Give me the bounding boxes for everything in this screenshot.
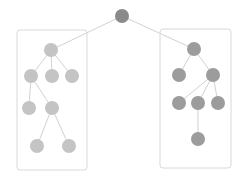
tree-node-L6 (45, 101, 59, 115)
tree-node-L5 (22, 101, 36, 115)
tree-node-L2 (24, 69, 38, 83)
tree-diagram (0, 0, 245, 181)
tree-node-L8 (62, 139, 76, 153)
tree-node-L3 (45, 69, 59, 83)
tree-node-L7 (30, 139, 44, 153)
tree-node-L4 (65, 69, 79, 83)
tree-node-L1 (44, 43, 58, 57)
tree-node-R6 (211, 96, 225, 110)
tree-node-R5 (191, 96, 205, 110)
tree-edges (29, 16, 218, 146)
tree-node-R7 (191, 132, 205, 146)
tree-node-R4 (172, 96, 186, 110)
tree-node-R2 (172, 68, 186, 82)
tree-nodes (22, 9, 225, 153)
edge-root-R1 (122, 16, 194, 49)
tree-node-root (115, 9, 129, 23)
tree-node-R3 (206, 68, 220, 82)
tree-node-R1 (187, 42, 201, 56)
